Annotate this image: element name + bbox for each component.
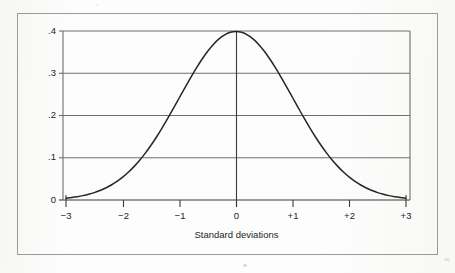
x-tick-label-0: 0 xyxy=(222,210,252,221)
y-axis-ticks xyxy=(59,31,63,200)
x-tick-label-+3: +3 xyxy=(391,210,421,221)
figure-page: .4 .3 .2 .1 0 −3 −2 −1 0 +1 +2 +3 Standa… xyxy=(0,0,455,273)
x-tick-label-+2: +2 xyxy=(335,210,365,221)
y-tick-label-0.4: .4 xyxy=(34,25,56,36)
y-tick-label-0.3: .3 xyxy=(34,67,56,78)
y-tick-label-0: 0 xyxy=(34,194,56,205)
x-tick-label--3: −3 xyxy=(51,210,81,221)
x-tick-label-+1: +1 xyxy=(278,210,308,221)
x-tick-label--1: −1 xyxy=(165,210,195,221)
x-axis-title: Standard deviations xyxy=(63,229,410,240)
y-tick-label-0.2: .2 xyxy=(34,109,56,120)
y-tick-label-0.1: .1 xyxy=(34,151,56,162)
x-tick-label--2: −2 xyxy=(109,210,139,221)
